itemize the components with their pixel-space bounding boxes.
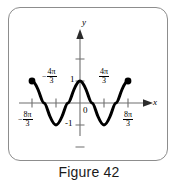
endpoint-dot-left [29,78,36,85]
figure-container: x y 0 1 -1 −8π3 −4π3 4π3 8π3 Figure 42 [0,0,178,187]
x-axis-label: x [153,97,157,107]
fraction-denominator: 3 [23,120,33,128]
x-label-pos-4pi-3: 4π3 [99,68,109,85]
endpoint-dot-right [125,78,132,85]
fraction-denominator: 3 [47,77,57,85]
fraction-denominator: 3 [123,120,133,128]
y-label-one: 1 [70,74,75,84]
figure-caption: Figure 42 [0,164,178,180]
x-label-neg-4pi-3: −4π3 [42,68,57,85]
y-axis-label: y [82,17,86,27]
x-axis-arrowhead [143,99,153,106]
y-axis-arrowhead [76,29,83,39]
plot-canvas [9,8,167,160]
plot-frame: x y 0 1 -1 −8π3 −4π3 4π3 8π3 [8,7,168,161]
x-label-pos-8pi-3: 8π3 [123,111,133,128]
origin-label: 0 [83,105,88,115]
y-label-neg-one: -1 [65,118,73,128]
x-label-neg-8pi-3: −8π3 [18,111,33,128]
fraction-denominator: 3 [99,77,109,85]
